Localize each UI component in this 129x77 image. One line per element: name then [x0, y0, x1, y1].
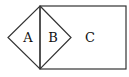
- label-b: B: [48, 30, 58, 45]
- label-a: A: [22, 30, 33, 45]
- label-c: C: [85, 30, 95, 45]
- geometry-diagram: A B C: [0, 0, 129, 77]
